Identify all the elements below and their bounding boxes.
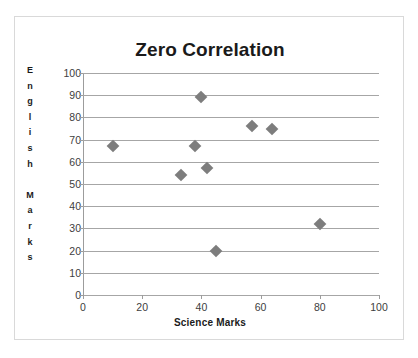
data-point-marker[interactable] xyxy=(266,122,279,135)
y-axis-title-letter: a xyxy=(21,203,39,219)
y-tick-label: 10 xyxy=(41,267,81,279)
x-tick-label: 0 xyxy=(63,301,103,313)
y-axis-tick-labels: 0102030405060708090100 xyxy=(41,17,81,341)
y-tick-mark xyxy=(79,228,83,229)
data-point-marker[interactable] xyxy=(189,140,202,153)
data-point-marker[interactable] xyxy=(245,120,258,133)
x-tick-mark xyxy=(201,295,202,299)
y-axis-title-letter: l xyxy=(21,110,39,126)
y-axis-title-letter: M xyxy=(21,188,39,204)
y-axis-title-letter: r xyxy=(21,219,39,235)
y-axis-title: English Marks xyxy=(21,63,39,266)
x-tick-mark xyxy=(261,295,262,299)
y-axis-title-letter: E xyxy=(21,63,39,79)
y-axis-title-letter: i xyxy=(21,125,39,141)
gridline xyxy=(83,184,379,185)
x-axis-title: Science Marks xyxy=(15,317,405,328)
y-tick-mark xyxy=(79,140,83,141)
data-point-marker[interactable] xyxy=(201,162,214,175)
y-axis-title-letter: k xyxy=(21,235,39,251)
y-axis-title-letter: g xyxy=(21,94,39,110)
data-point-marker[interactable] xyxy=(210,244,223,257)
gridline xyxy=(83,73,379,74)
plot-area xyxy=(83,73,379,295)
gridline xyxy=(83,295,379,296)
y-tick-mark xyxy=(79,162,83,163)
chart-figure: Zero Correlation English Marks 010203040… xyxy=(0,0,418,358)
gridline xyxy=(83,273,379,274)
gridline xyxy=(83,206,379,207)
y-tick-label: 100 xyxy=(41,67,81,79)
x-tick-label: 20 xyxy=(122,301,162,313)
y-tick-mark xyxy=(79,95,83,96)
x-tick-mark xyxy=(379,295,380,299)
gridline xyxy=(83,140,379,141)
y-tick-mark xyxy=(79,73,83,74)
x-tick-label: 40 xyxy=(181,301,221,313)
gridline xyxy=(83,228,379,229)
y-tick-label: 50 xyxy=(41,178,81,190)
y-tick-mark xyxy=(79,273,83,274)
x-tick-label: 80 xyxy=(300,301,340,313)
x-axis-tick-labels: 020406080100 xyxy=(83,301,379,317)
y-tick-label: 20 xyxy=(41,245,81,257)
y-tick-label: 40 xyxy=(41,200,81,212)
y-tick-label: 0 xyxy=(41,289,81,301)
y-axis-title-letter: s xyxy=(21,250,39,266)
x-tick-mark xyxy=(83,295,84,299)
data-point-marker[interactable] xyxy=(195,91,208,104)
y-tick-label: 30 xyxy=(41,222,81,234)
y-tick-label: 80 xyxy=(41,111,81,123)
gridline xyxy=(83,162,379,163)
gridline xyxy=(83,117,379,118)
y-axis-title-letter: s xyxy=(21,141,39,157)
y-tick-mark xyxy=(79,206,83,207)
y-tick-mark xyxy=(79,251,83,252)
gridline xyxy=(83,95,379,96)
x-tick-mark xyxy=(142,295,143,299)
x-tick-label: 60 xyxy=(241,301,281,313)
y-tick-label: 70 xyxy=(41,134,81,146)
y-tick-mark xyxy=(79,117,83,118)
gridline xyxy=(83,251,379,252)
y-axis-title-letter: n xyxy=(21,79,39,95)
y-axis-title-letter: h xyxy=(21,157,39,173)
data-point-marker[interactable] xyxy=(106,140,119,153)
data-point-marker[interactable] xyxy=(174,169,187,182)
x-tick-label: 100 xyxy=(359,301,399,313)
chart-frame: Zero Correlation English Marks 010203040… xyxy=(14,16,404,340)
y-tick-label: 90 xyxy=(41,89,81,101)
x-tick-mark xyxy=(320,295,321,299)
y-tick-label: 60 xyxy=(41,156,81,168)
y-tick-mark xyxy=(79,184,83,185)
